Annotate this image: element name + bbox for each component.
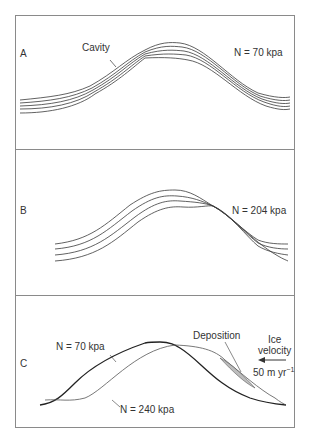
ice-velocity-title-1: Ice — [268, 335, 281, 345]
deposition-label: Deposition — [193, 331, 240, 341]
panel-a-label: A — [20, 49, 27, 59]
panel-c-label: C — [20, 359, 27, 369]
panel-a — [15, 15, 295, 149]
n70-label: N = 70 kpa — [56, 342, 105, 352]
ice-velocity-value: 50 m yr−1 — [253, 366, 294, 378]
ice-velocity-title-2: velocity — [258, 346, 291, 356]
cavity-label: Cavity — [82, 43, 110, 53]
panel-b — [15, 149, 295, 295]
panel-b-label: B — [20, 206, 27, 216]
panel-b-pressure-label: N = 204 kpa — [232, 206, 286, 216]
panel-a-pressure-label: N = 70 kpa — [234, 48, 283, 58]
ice-velocity-value-text: 50 m yr — [253, 367, 286, 378]
n240-label: N = 240 kpa — [120, 405, 174, 415]
ice-velocity-exponent: −1 — [286, 366, 294, 373]
